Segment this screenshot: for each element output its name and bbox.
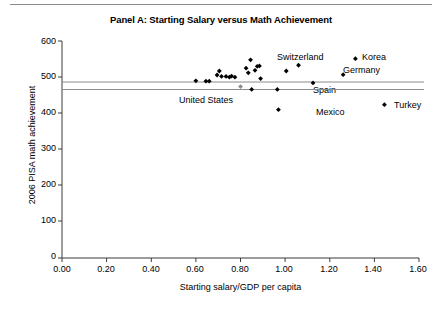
data-point-spain — [311, 81, 316, 86]
data-point-united-states — [238, 84, 243, 89]
data-point — [244, 66, 249, 71]
data-point — [207, 79, 212, 84]
data-points-layer — [193, 56, 386, 112]
data-point — [284, 69, 289, 74]
scatter-plot-svg — [0, 0, 442, 316]
data-point-mexico — [276, 107, 281, 112]
data-point-germany — [341, 72, 346, 77]
reference-lines — [62, 82, 424, 90]
data-point — [253, 68, 258, 73]
y-axis-ticks — [58, 41, 62, 258]
axes — [62, 41, 419, 258]
data-point — [215, 73, 220, 78]
data-point — [248, 57, 253, 62]
data-point — [246, 70, 251, 75]
data-point-turkey — [382, 102, 387, 107]
data-point — [258, 76, 263, 81]
data-point-switzerland — [296, 63, 301, 68]
data-point — [275, 87, 280, 92]
data-point — [219, 74, 224, 79]
data-point — [217, 69, 222, 74]
plot-area-wrapper: 2006 PISA math achievement Starting sala… — [0, 0, 442, 316]
data-point-korea — [353, 56, 358, 61]
figure-panel-a: Panel A: Starting Salary versus Math Ach… — [0, 0, 442, 316]
data-point — [249, 87, 254, 92]
x-axis-ticks — [62, 258, 419, 262]
